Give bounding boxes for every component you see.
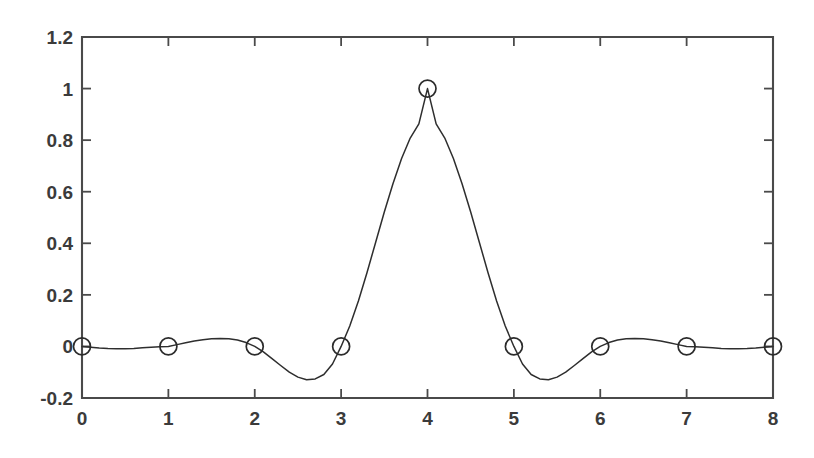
data-curves (82, 89, 773, 380)
y-tick-label: 0 (62, 336, 73, 357)
x-tick-label: 8 (768, 408, 779, 429)
y-tick-label: 0.6 (47, 182, 73, 203)
x-tick-label: 1 (163, 408, 174, 429)
x-tick-label: 3 (336, 408, 347, 429)
y-tick-labels: -0.200.20.40.60.811.2 (40, 27, 73, 409)
y-tick-label: 1.2 (47, 27, 73, 48)
x-tick-label: 2 (249, 408, 260, 429)
data-point-markers (74, 80, 782, 355)
x-tick-labels: 012345678 (77, 408, 779, 429)
data-curve (82, 89, 773, 380)
x-tick-label: 0 (77, 408, 88, 429)
y-tick-label: 0.4 (47, 233, 74, 254)
y-tick-label: 0.8 (47, 130, 73, 151)
y-tick-label: 0.2 (47, 285, 73, 306)
y-tick-label: 1 (62, 79, 73, 100)
x-tick-label: 6 (595, 408, 606, 429)
y-tick-label: -0.2 (40, 388, 73, 409)
x-tick-label: 7 (681, 408, 692, 429)
chart-figure: 012345678 -0.200.20.40.60.811.2 (0, 0, 814, 458)
x-tick-label: 5 (509, 408, 520, 429)
plot-canvas: 012345678 -0.200.20.40.60.811.2 (0, 0, 814, 458)
x-tick-label: 4 (422, 408, 433, 429)
